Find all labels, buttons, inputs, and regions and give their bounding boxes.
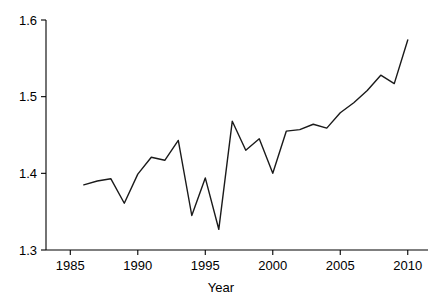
x-axis-title: Year [208,280,235,295]
data-series-group [84,40,408,229]
x-axis-tick-label: 1985 [56,258,85,273]
x-axis-tick-label: 2005 [326,258,355,273]
y-axis-tick-label: 1.6 [19,13,37,28]
x-axis-tick-label: 2000 [258,258,287,273]
y-axis-tick-label: 1.5 [19,89,37,104]
y-axis: 1.31.41.51.6 [19,13,46,258]
x-axis: 198519901995200020052010 [46,250,428,273]
y-axis-tick-label: 1.4 [19,166,37,181]
x-axis-tick-label: 1995 [191,258,220,273]
chart-canvas: 1.31.41.51.6 198519901995200020052010 Ye… [0,0,442,305]
x-axis-tick-label: 1990 [123,258,152,273]
y-axis-tick-label: 1.3 [19,243,37,258]
line-chart: 1.31.41.51.6 198519901995200020052010 Ye… [0,0,442,305]
x-axis-tick-label: 2010 [393,258,422,273]
data-line [84,40,408,229]
